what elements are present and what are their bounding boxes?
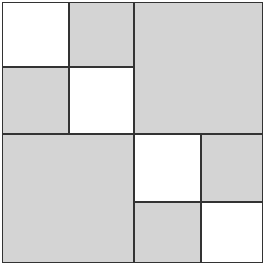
cell-br-tl-white bbox=[134, 134, 201, 202]
cell-tl-tl-white bbox=[2, 2, 69, 67]
cell-tl-bl-gray bbox=[2, 67, 69, 134]
cell-br-tr-gray bbox=[201, 134, 263, 202]
checkerboard-diagram bbox=[2, 2, 263, 263]
cell-br-br-white bbox=[201, 202, 263, 263]
cell-bl-gray bbox=[2, 134, 134, 263]
cell-tl-br-white bbox=[69, 67, 134, 134]
cell-tr-gray bbox=[134, 2, 263, 134]
cell-br-bl-gray bbox=[134, 202, 201, 263]
cell-tl-tr-gray bbox=[69, 2, 134, 67]
